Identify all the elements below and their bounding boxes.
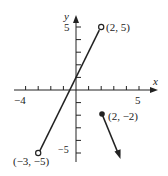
y-axis-arrow-icon <box>73 15 79 23</box>
graph: x −4 5 y 5 −5 (2, 5) (−3, −5) <box>0 0 168 176</box>
line-segment: (2, 5) (−3, −5) <box>13 21 130 168</box>
point-label-bottom: (−3, −5) <box>13 155 50 168</box>
point-label-top: (2, 5) <box>106 21 130 34</box>
x-max-label: 5 <box>135 94 141 106</box>
x-axis-label: x <box>152 75 158 87</box>
x-min-label: −4 <box>14 94 26 106</box>
open-point-top <box>99 24 104 29</box>
x-ticks <box>26 86 139 90</box>
ray: (2, −2) <box>99 110 138 159</box>
x-axis: x −4 5 <box>14 75 158 106</box>
ray-arrow-icon <box>115 149 121 159</box>
point-label-ray: (2, −2) <box>108 110 138 123</box>
x-axis-arrow-icon <box>150 87 158 93</box>
y-max-label: 5 <box>64 21 70 33</box>
closed-point <box>99 111 105 117</box>
y-min-label: −5 <box>58 144 69 155</box>
y-axis: y 5 −5 <box>58 10 81 162</box>
